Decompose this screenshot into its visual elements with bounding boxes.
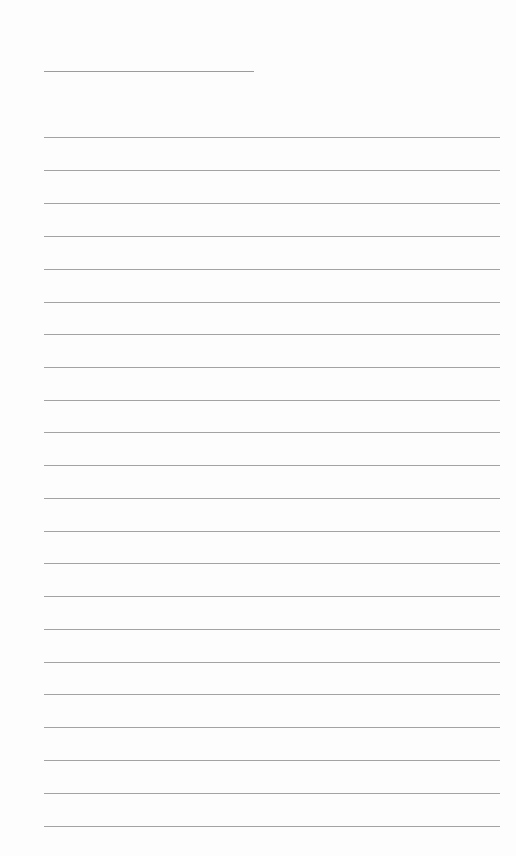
ruled-line <box>44 727 500 728</box>
ruled-line <box>44 662 500 663</box>
ruled-line <box>44 465 500 466</box>
ruled-line <box>44 400 500 401</box>
ruled-line <box>44 236 500 237</box>
ruled-line <box>44 269 500 270</box>
ruled-line <box>44 137 500 138</box>
ruled-line <box>44 563 500 564</box>
ruled-line <box>44 203 500 204</box>
ruled-line <box>44 531 500 532</box>
ruled-line <box>44 367 500 368</box>
ruled-line <box>44 826 500 827</box>
ruled-line <box>44 596 500 597</box>
ruled-line <box>44 170 500 171</box>
ruled-line <box>44 694 500 695</box>
lined-paper-page <box>0 0 516 856</box>
ruled-line <box>44 302 500 303</box>
ruled-line <box>44 432 500 433</box>
ruled-line <box>44 760 500 761</box>
ruled-line <box>44 498 500 499</box>
ruled-line <box>44 793 500 794</box>
ruled-line <box>44 629 500 630</box>
header-line <box>44 71 254 72</box>
ruled-line <box>44 334 500 335</box>
